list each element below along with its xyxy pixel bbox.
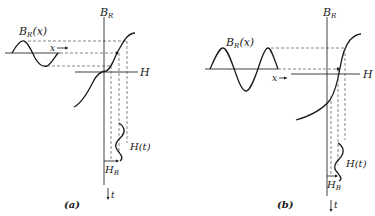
hb-arrow-b xyxy=(335,175,338,178)
caption-a: (a) xyxy=(64,199,80,210)
time-label-b: t xyxy=(334,200,338,210)
input-wave-b xyxy=(205,48,278,91)
h-axis-label-a: H xyxy=(139,66,150,79)
x-label-b: x xyxy=(272,73,277,83)
transfer-curve-b xyxy=(296,34,361,120)
output-wave-label-a: H(t) xyxy=(129,141,151,152)
diagram-canvas: BR(x) x BR H t H(t) HB (a) xyxy=(0,0,375,216)
output-wave-label-b: H(t) xyxy=(345,158,367,169)
hb-label-a: HB xyxy=(104,164,119,177)
hb-label-b: HB xyxy=(326,179,341,192)
output-wave-a xyxy=(116,123,124,161)
panel-b: BR(x) x BR H t H(t) HB (b) xyxy=(205,6,373,212)
panel-a: BR(x) x BR H t H(t) HB (a) xyxy=(5,6,151,210)
x-arrowhead-a xyxy=(65,47,68,50)
hb-arrow-a xyxy=(116,160,119,163)
time-arrow-a xyxy=(107,197,110,200)
br-axis-label-b: BR xyxy=(322,6,337,20)
input-wave-label-a: BR(x) xyxy=(18,25,47,39)
time-label-a: t xyxy=(111,190,115,200)
input-wave-label-b: BR(x) xyxy=(225,36,254,50)
br-axis-label-a: BR xyxy=(99,6,114,20)
transfer-curve-a xyxy=(74,33,135,107)
x-arrowhead-b xyxy=(284,77,287,80)
h-axis-label-b: H xyxy=(362,68,373,81)
time-arrow-b xyxy=(330,209,333,212)
caption-b: (b) xyxy=(277,199,294,210)
x-label-a: x xyxy=(50,43,55,53)
